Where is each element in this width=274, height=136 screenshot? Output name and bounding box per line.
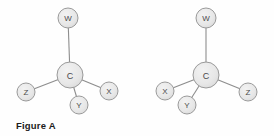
atom-x-left[interactable]: X (100, 82, 118, 100)
atom-c-left[interactable]: C (57, 62, 83, 88)
figure-caption: Figure A (16, 120, 56, 131)
atom-label-y-right: Y (184, 101, 190, 110)
atom-y-left[interactable]: Y (70, 96, 88, 114)
atom-z-left[interactable]: Z (17, 83, 35, 101)
atom-label-z-left: Z (24, 88, 29, 97)
molecule-figure-canvas: W Z X Y C W (0, 0, 274, 136)
atom-label-w-left: W (64, 14, 72, 23)
atom-label-z-right: Z (246, 88, 251, 97)
atom-w-right[interactable]: W (196, 8, 216, 28)
atom-w-left[interactable]: W (58, 8, 78, 28)
structure-right: W X Z Y C (156, 8, 257, 114)
bond-group-left (26, 18, 109, 105)
atom-label-x-left: X (106, 87, 112, 96)
atom-x-right[interactable]: X (156, 82, 174, 100)
atom-label-y-left: Y (76, 101, 82, 110)
atom-c-right[interactable]: C (193, 62, 219, 88)
atom-label-c-left: C (67, 71, 74, 81)
atom-label-x-right: X (162, 87, 168, 96)
atom-z-right[interactable]: Z (239, 83, 257, 101)
atom-y-right[interactable]: Y (178, 96, 196, 114)
structure-left: W Z X Y C (17, 8, 118, 114)
atom-label-w-right: W (202, 14, 210, 23)
atom-label-c-right: C (203, 71, 210, 81)
bond-group-right (165, 18, 248, 105)
